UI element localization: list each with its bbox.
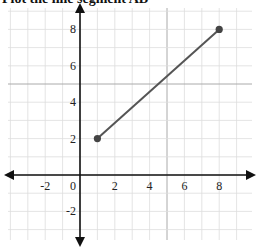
y-tick-label: 8 [70, 22, 76, 36]
point-b-marker [216, 26, 223, 33]
grid-lines [8, 8, 252, 240]
x-tick-label: 4 [147, 179, 153, 193]
x-axis-left-arrow-icon [4, 170, 14, 180]
axes [4, 3, 256, 247]
y-tick-label: -2 [66, 204, 76, 218]
x-tick-label: 0 [70, 179, 76, 193]
x-axis-right-arrow-icon [246, 170, 256, 180]
y-tick-label: 4 [70, 95, 76, 109]
x-tick-label: 6 [181, 179, 187, 193]
x-tick-label: 2 [112, 179, 118, 193]
y-tick-label: 6 [70, 59, 76, 73]
point-a-marker [94, 135, 101, 142]
coordinate-plane: -2024688642-2 [0, 0, 258, 250]
x-tick-label: 8 [216, 179, 222, 193]
x-tick-label: -2 [40, 179, 50, 193]
y-tick-label: 2 [70, 132, 76, 146]
y-axis-up-arrow-icon [75, 3, 85, 13]
y-axis-down-arrow-icon [75, 237, 85, 247]
